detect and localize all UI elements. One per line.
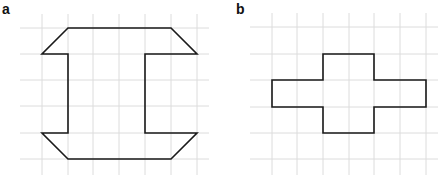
- grid-b: [250, 13, 438, 175]
- diagram-canvas: [0, 0, 439, 178]
